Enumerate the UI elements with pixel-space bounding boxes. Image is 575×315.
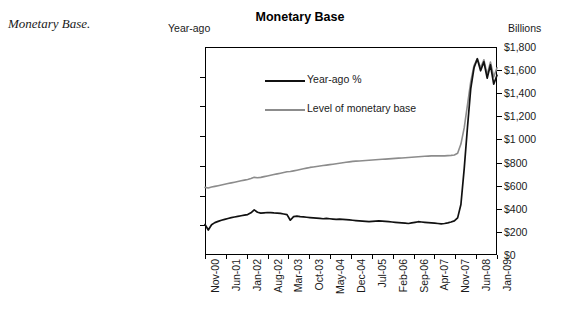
x-axis-tick-label: Apr-07 <box>438 259 450 291</box>
x-axis-tick-mark <box>330 255 331 259</box>
right-axis-tick-label: $800 <box>504 157 527 169</box>
x-axis-tick-mark <box>393 255 394 259</box>
legend-label-level-of-monetary-base: Level of monetary base <box>307 102 416 114</box>
x-axis-tick-mark <box>434 255 435 259</box>
x-axis-tick-mark <box>288 255 289 259</box>
figure-caption: Monetary Base. <box>8 16 90 32</box>
x-axis-tick-mark <box>476 255 477 259</box>
x-axis-tick-label: Jun-01 <box>230 259 242 291</box>
right-axis-tick-label: $1,600 <box>504 64 536 76</box>
x-axis-tick-mark <box>351 255 352 259</box>
x-axis-tick-label: Jan-09 <box>501 259 513 291</box>
x-axis-tick-mark <box>205 255 206 259</box>
x-axis-tick-mark <box>414 255 415 259</box>
right-axis-tick-label: $1,200 <box>504 110 536 122</box>
x-axis-tick-label: May-04 <box>334 259 346 294</box>
right-axis-tick-label: $1,400 <box>504 87 536 99</box>
x-axis-tick-mark <box>372 255 373 259</box>
chart-title: Monetary Base <box>256 10 345 24</box>
right-axis-tick-label: $1,800 <box>504 41 536 53</box>
right-axis-tick-label: $400 <box>504 203 527 215</box>
x-axis-tick-label: Jul-05 <box>376 259 388 288</box>
x-axis-tick-mark <box>455 255 456 259</box>
legend-swatch-level-of-monetary-base <box>265 109 305 111</box>
right-axis-tick-mark <box>497 93 502 94</box>
x-axis-tick-label: Jan-02 <box>251 259 263 291</box>
x-axis-tick-mark <box>497 255 498 259</box>
right-axis-tick-mark <box>497 209 502 210</box>
x-axis-tick-label: Feb-06 <box>397 259 409 292</box>
right-axis-tick-mark <box>497 139 502 140</box>
right-axis-tick-mark <box>497 186 502 187</box>
figure-container: Monetary Base. Monetary Base Year-ago Bi… <box>0 0 575 315</box>
right-axis-tick-mark <box>497 116 502 117</box>
left-axis-caption: Year-ago <box>168 22 210 34</box>
right-axis-tick-mark <box>497 232 502 233</box>
x-axis-tick-mark <box>247 255 248 259</box>
right-axis-tick-mark <box>497 163 502 164</box>
x-axis-tick-label: Mar-03 <box>292 259 304 292</box>
x-axis-tick-label: Jun-08 <box>480 259 492 291</box>
x-axis-tick-mark <box>268 255 269 259</box>
x-axis-tick-mark <box>226 255 227 259</box>
right-axis-tick-label: $1 000 <box>504 133 536 145</box>
x-axis-tick-label: Nov-07 <box>459 259 471 293</box>
x-axis-tick-label: Dec-04 <box>355 259 367 293</box>
legend-label-year-ago-pct: Year-ago % <box>307 73 361 85</box>
x-axis-tick-label: Aug-02 <box>272 259 284 293</box>
right-axis-caption: Billions <box>508 22 541 34</box>
right-axis-tick-mark <box>497 70 502 71</box>
x-axis-tick-label: Nov-00 <box>209 259 221 293</box>
right-axis-tick-label: $600 <box>504 180 527 192</box>
x-axis-tick-label: Sep-06 <box>418 259 430 293</box>
x-axis-tick-mark <box>309 255 310 259</box>
x-axis-tick-label: Oct-03 <box>313 259 325 291</box>
legend-swatch-year-ago-pct <box>265 80 305 82</box>
right-axis-tick-label: $200 <box>504 226 527 238</box>
